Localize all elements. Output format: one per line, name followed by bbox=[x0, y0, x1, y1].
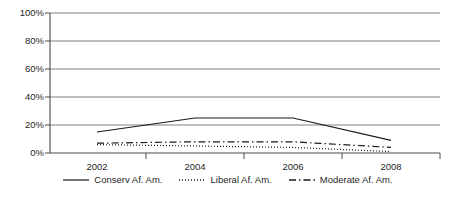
y-tick-label-80: 80% bbox=[4, 35, 44, 46]
y-tick-label-60: 60% bbox=[4, 63, 44, 74]
chart-legend: Conserv Af. Am. Liberal Af. Am. Moderate… bbox=[0, 174, 456, 185]
legend-swatch-dashdot-icon bbox=[289, 175, 315, 185]
legend-label-moderate-af-am: Moderate Af. Am. bbox=[320, 174, 393, 185]
legend-swatch-solid-icon bbox=[63, 175, 89, 185]
series-lines bbox=[97, 118, 391, 152]
x-tick-label-2006: 2006 bbox=[271, 161, 315, 172]
series-line-conserv-af-am bbox=[97, 118, 391, 140]
x-tick-label-2004: 2004 bbox=[173, 161, 217, 172]
legend-item-moderate-af-am[interactable]: Moderate Af. Am. bbox=[289, 174, 393, 185]
y-tick-label-100: 100% bbox=[4, 7, 44, 18]
series-line-liberal-af-am bbox=[97, 145, 391, 152]
legend-item-liberal-af-am[interactable]: Liberal Af. Am. bbox=[179, 174, 271, 185]
x-tick-label-2002: 2002 bbox=[75, 161, 119, 172]
y-tick-label-20: 20% bbox=[4, 119, 44, 130]
legend-item-conserv-af-am[interactable]: Conserv Af. Am. bbox=[63, 174, 162, 185]
y-tick-label-40: 40% bbox=[4, 91, 44, 102]
line-chart: 100% 80% 60% 40% 20% 0% 2002 2004 2006 2… bbox=[0, 0, 456, 201]
gridlines bbox=[50, 13, 440, 125]
legend-label-conserv-af-am: Conserv Af. Am. bbox=[94, 174, 162, 185]
x-tick-marks bbox=[146, 153, 440, 159]
x-tick-label-2008: 2008 bbox=[369, 161, 413, 172]
legend-swatch-dotted-icon bbox=[179, 175, 205, 185]
y-tick-marks bbox=[45, 13, 50, 153]
legend-label-liberal-af-am: Liberal Af. Am. bbox=[210, 174, 271, 185]
y-tick-label-0: 0% bbox=[4, 147, 44, 158]
